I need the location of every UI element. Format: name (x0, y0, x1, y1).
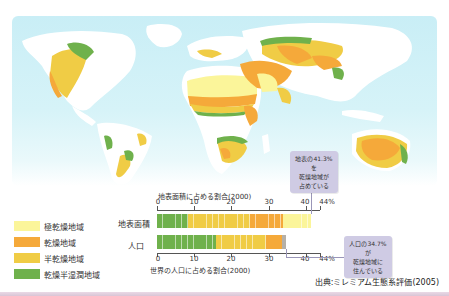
source-citation: 出典:ミレミアム生態系評価(2005) (315, 276, 439, 287)
tick-label: 10 (190, 255, 199, 263)
tick-label: 20 (227, 198, 236, 206)
bar-segment-other (282, 235, 286, 249)
legend-label: 乾燥地域 (44, 237, 76, 248)
tick (306, 206, 307, 210)
bar-segment-semi-arid (188, 214, 250, 228)
callout-line: 乾燥地域が (294, 172, 334, 181)
tick-label: 0 (156, 255, 160, 263)
legend-label: 極乾燥地域 (44, 221, 84, 232)
tick-label: 40 (301, 198, 310, 206)
bar-population (157, 235, 286, 249)
bar-segment-arid (250, 214, 283, 228)
bar-segment-dry-subhumid (157, 214, 188, 228)
tick-label: 10 (190, 198, 199, 206)
bar-segment-arid (266, 235, 282, 249)
callout-leader (286, 257, 344, 258)
callout-line: 住んでいる (348, 266, 388, 275)
legend-swatch (14, 269, 40, 279)
tick-label: 44% (319, 198, 335, 206)
callout-line: 占めている (294, 181, 334, 190)
bar-segment-semi-arid (216, 235, 266, 249)
tick (269, 206, 270, 210)
bottom-axis-line (157, 253, 320, 254)
tick (320, 206, 321, 210)
map-graphic (12, 16, 437, 186)
callout-population: 人口の34.7%が 乾燥地域に 住んでいる (344, 236, 392, 278)
legend-swatch (14, 237, 40, 247)
tick (231, 206, 232, 210)
bar-segment-dry-subhumid (157, 235, 216, 249)
legend-swatch (14, 253, 40, 263)
legend-item-hyper-arid: 極乾燥地域 (14, 218, 100, 234)
legend-swatch (14, 221, 40, 231)
chart-bottom-title: 世界の人口に占める割合(2000) (150, 265, 250, 275)
row-label-population: 人口 (128, 240, 144, 251)
chart-top-title: 地表面積に占める割合(2000) (158, 191, 251, 201)
bottom-divider (0, 292, 449, 296)
tick-label: 30 (265, 198, 274, 206)
callout-land-area: 地表の41.3%を 乾燥地域が 占めている (290, 151, 338, 193)
tick-label: 0 (156, 198, 160, 206)
row-label-land-area: 地表面積 (118, 218, 150, 229)
legend-label: 半乾燥地域 (44, 253, 84, 264)
legend: 極乾燥地域 乾燥地域 半乾燥地域 乾燥半湿潤地域 (14, 218, 100, 282)
tick (157, 206, 158, 210)
bar-land-area (157, 214, 311, 228)
tick (194, 206, 195, 210)
legend-label: 乾燥半湿潤地域 (44, 269, 100, 280)
tick-label: 30 (265, 255, 274, 263)
legend-item-semi-arid: 半乾燥地域 (14, 250, 100, 266)
callout-line: 地表の41.3%を (294, 154, 334, 172)
callout-line: 乾燥地域に (348, 257, 388, 266)
legend-item-dry-subhumid: 乾燥半湿潤地域 (14, 266, 100, 282)
tick-label: 20 (227, 255, 236, 263)
callout-line: 人口の34.7%が (348, 239, 388, 257)
top-axis-line (157, 210, 320, 211)
world-dryland-map (12, 16, 437, 186)
bar-segment-hyper-arid (283, 214, 311, 228)
legend-item-arid: 乾燥地域 (14, 234, 100, 250)
